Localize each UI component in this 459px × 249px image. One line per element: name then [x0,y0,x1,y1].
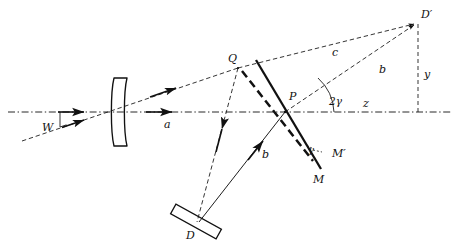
label-D: D [185,229,195,242]
label-M: M [312,173,325,186]
label-c: c [332,46,338,59]
label-M-prime: M′ [331,147,346,160]
label-D-prime: D′ [420,8,433,21]
ray-Q-to-Dprime [238,24,414,68]
label-b-lower: b [262,148,269,161]
point-P-dot [284,111,286,113]
mirror-M-prime [242,71,313,161]
optics-diagram: W a Q P c b b y z 2γ γ M M′ D D′ [0,0,459,249]
label-Q: Q [228,52,237,65]
label-W: W [42,121,55,134]
label-b-upper: b [379,63,386,76]
optics-svg-canvas: W a Q P c b b y z 2γ γ M M′ D D′ [0,0,459,249]
ray-Q-to-D-arrow [216,129,222,152]
label-gamma: γ [308,144,314,155]
incoming-ray-arrow [62,120,84,128]
ray-P-to-Dprime [285,25,414,112]
label-2gamma: 2γ [328,95,343,107]
label-z: z [362,97,369,110]
label-a: a [164,118,171,131]
point-Q-dot [237,67,239,69]
detector-D [171,204,222,239]
ray-D-to-P-arrow [248,141,263,160]
post-lens-ray-arrow [150,88,176,97]
angle-gamma-pointer [313,150,322,152]
label-P: P [288,90,297,103]
incoming-ray-segment [22,68,238,141]
label-y: y [423,68,431,81]
